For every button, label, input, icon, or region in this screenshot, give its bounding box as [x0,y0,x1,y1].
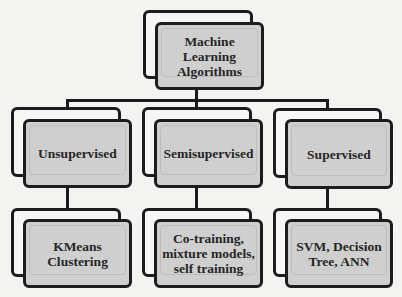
root-node: Machine Learning Algorithms [155,22,264,90]
unsupervised-label: Unsupervised [38,146,117,161]
svm-label: SVM, Decision Tree, ANN [296,239,382,269]
svm-node: SVM, Decision Tree, ANN [285,219,393,288]
cotraining-node: Co-training, mixture models, self traini… [154,219,263,288]
connector-semisupervised-down [195,187,198,209]
connector-supervised-down [326,188,329,209]
connector-unsupervised-down [66,187,69,209]
kmeans-node: KMeans Clustering [23,219,132,288]
root-node-label: Machine Learning Algorithms [177,34,242,79]
cotraining-label: Co-training, mixture models, self traini… [162,231,255,276]
supervised-label: Supervised [307,147,371,162]
supervised-node: Supervised [285,119,393,189]
semisupervised-label: Semisupervised [163,146,253,161]
connector-supervised-up [326,99,329,108]
semisupervised-node: Semisupervised [154,119,263,188]
unsupervised-node: Unsupervised [23,119,132,188]
kmeans-label: KMeans Clustering [47,239,108,269]
